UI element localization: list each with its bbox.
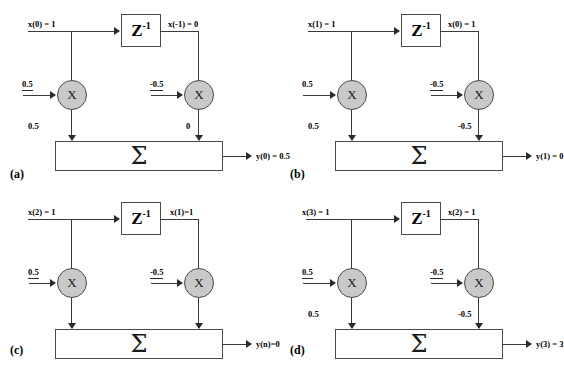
panel-a: x(0) = 1 Z-1 x(-1) = 0 0.5 X -0.5 X 0.5 … — [0, 0, 279, 188]
panel-caption: (c) — [10, 344, 23, 356]
right-gain-label: -0.5 — [430, 80, 443, 91]
summation-block: Σ — [55, 141, 223, 171]
right-gain-wire — [151, 95, 179, 96]
right-multiplier-symbol: X — [474, 275, 483, 291]
delay-output-label: x(-1) = 0 — [168, 20, 198, 29]
left-multiplier: X — [337, 268, 367, 298]
left-product-label: 0.5 — [28, 122, 39, 131]
left-gain-label: 0.5 — [22, 80, 33, 91]
input-arrowhead — [114, 27, 120, 35]
summation-block: Σ — [335, 141, 503, 171]
right-gain-arrowhead — [457, 279, 463, 287]
right-gain-wire — [431, 95, 459, 96]
delay-label: Z-1 — [131, 22, 151, 39]
input-label: x(0) = 1 — [28, 20, 56, 29]
right-gain-arrowhead — [177, 279, 183, 287]
delay-output-wire — [161, 219, 199, 220]
output-label: y(1) = 0 — [536, 152, 564, 161]
left-gain-arrowhead — [50, 91, 56, 99]
panel-c: x(2) = 1 Z-1 x(1)=1 0.5 X -0.5 X Σ y(n)=… — [0, 188, 279, 376]
left-gain-wire — [23, 95, 52, 96]
left-multiplier-symbol: X — [67, 275, 76, 291]
right-multiplier-symbol: X — [474, 87, 483, 103]
right-multiplier: X — [464, 268, 494, 298]
summation-block: Σ — [335, 329, 503, 359]
right-multiplier-symbol: X — [194, 275, 203, 291]
delay-block: Z-1 — [121, 202, 161, 235]
left-gain-label: 0.5 — [302, 268, 313, 279]
input-wire — [28, 219, 116, 220]
panel-caption: (d) — [290, 344, 305, 356]
delay-label: Z-1 — [411, 210, 431, 227]
delay-output-wire — [441, 31, 479, 32]
panel-b: x(1) = 1 Z-1 x(0) = 1 0.5 X -0.5 X 0.5 -… — [280, 0, 559, 188]
input-wire — [308, 31, 396, 32]
delay-output-label: x(2) = 1 — [448, 208, 476, 217]
output-wire — [223, 344, 248, 345]
delay-label: Z-1 — [131, 210, 151, 227]
left-gain-label: 0.5 — [28, 268, 39, 279]
left-gain-arrowhead — [330, 91, 336, 99]
input-label: x(3) = 1 — [302, 208, 330, 217]
delay-output-label: x(0) = 1 — [448, 20, 476, 29]
panel-caption: (a) — [10, 168, 24, 180]
left-multiplier-symbol: X — [347, 87, 356, 103]
right-multiplier: X — [184, 80, 214, 110]
left-multiplier: X — [57, 268, 87, 298]
delay-output-wire — [441, 219, 479, 220]
delay-label: Z-1 — [411, 22, 431, 39]
left-product-label: 0.5 — [308, 310, 319, 319]
sigma-symbol: Σ — [131, 144, 148, 168]
left-multiplier-symbol: X — [347, 275, 356, 291]
right-gain-wire — [431, 283, 459, 284]
output-label: y(3) = 3 — [536, 340, 564, 349]
left-gain-wire — [303, 283, 332, 284]
input-arrowhead — [394, 27, 400, 35]
output-wire — [223, 156, 248, 157]
delay-block: Z-1 — [401, 14, 441, 47]
output-wire — [503, 344, 528, 345]
output-arrowhead — [246, 340, 252, 348]
right-gain-label: -0.5 — [150, 268, 163, 279]
right-product-label: -0.5 — [458, 310, 471, 319]
output-label: y(n)=0 — [256, 340, 280, 349]
input-wire — [28, 31, 116, 32]
delay-block: Z-1 — [401, 202, 441, 235]
panel-d: x(3) = 1 Z-1 x(2) = 1 0.5 X -0.5 X 0.5 -… — [280, 188, 559, 376]
input-label: x(1) = 1 — [308, 20, 336, 29]
right-gain-arrowhead — [177, 91, 183, 99]
right-product-label: -0.5 — [458, 122, 471, 131]
output-arrowhead — [526, 152, 532, 160]
right-multiplier-symbol: X — [194, 87, 203, 103]
output-arrowhead — [526, 340, 532, 348]
right-multiplier: X — [464, 80, 494, 110]
right-gain-arrowhead — [457, 91, 463, 99]
left-gain-arrowhead — [330, 279, 336, 287]
sigma-symbol: Σ — [411, 144, 428, 168]
output-arrowhead — [246, 152, 252, 160]
panel-caption: (b) — [290, 168, 305, 180]
summation-block: Σ — [55, 329, 223, 359]
input-arrowhead — [114, 215, 120, 223]
delay-output-wire — [161, 31, 199, 32]
left-multiplier: X — [57, 80, 87, 110]
left-gain-label: 0.5 — [302, 80, 313, 89]
right-product-label: 0 — [186, 122, 190, 131]
sigma-symbol: Σ — [411, 332, 428, 356]
right-gain-wire — [151, 283, 179, 284]
output-wire — [503, 156, 528, 157]
delay-output-label: x(1)=1 — [170, 208, 193, 217]
right-gain-label: -0.5 — [150, 80, 163, 91]
right-gain-label: -0.5 — [430, 268, 443, 279]
input-arrowhead — [394, 215, 400, 223]
right-multiplier: X — [184, 268, 214, 298]
input-label: x(2) = 1 — [28, 208, 56, 217]
left-gain-arrowhead — [50, 279, 56, 287]
left-multiplier-symbol: X — [67, 87, 76, 103]
left-gain-wire — [303, 95, 332, 96]
left-product-label: 0.5 — [308, 122, 319, 131]
delay-block: Z-1 — [121, 14, 161, 47]
sigma-symbol: Σ — [131, 332, 148, 356]
left-multiplier: X — [337, 80, 367, 110]
